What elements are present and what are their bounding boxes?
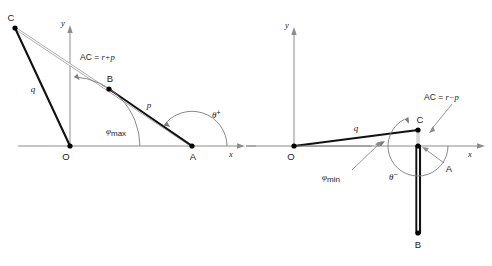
right-theta-superscript: − [393, 171, 397, 178]
figure-root: O A B C y x q p AC = r+p φmax θ+ [0, 0, 492, 266]
right-label-theta-minus: θ− [389, 171, 398, 183]
left-point-C [12, 25, 17, 30]
right-label-AC-equation: AC = r−p [424, 92, 459, 102]
right-point-C [415, 127, 420, 132]
panel-left: O A B C y x q p AC = r+p φmax θ+ [8, 12, 245, 162]
right-label-y-axis: y [284, 20, 289, 30]
left-theta-superscript: + [216, 109, 220, 116]
right-label-O: O [287, 151, 294, 162]
left-label-q: q [31, 84, 36, 94]
left-point-O [67, 143, 72, 148]
right-label-C: C [417, 114, 424, 125]
right-link-p [416, 146, 420, 233]
right-label-A: A [446, 163, 453, 174]
left-AC-rhs: r+p [102, 52, 115, 62]
left-AC-lhs: AC = [80, 52, 102, 62]
right-leader-A [425, 149, 444, 163]
left-label-O: O [62, 151, 69, 162]
left-y-axis [67, 25, 72, 146]
left-label-y-axis: y [60, 18, 65, 28]
left-arc-theta-plus [164, 111, 227, 146]
left-label-A: A [190, 151, 197, 162]
right-leader-phi-min [352, 143, 380, 170]
right-label-B: B [415, 239, 421, 250]
right-point-O [291, 143, 296, 148]
left-phi-subscript: max [111, 129, 126, 138]
right-label-q: q [354, 123, 359, 133]
left-label-C: C [8, 12, 15, 23]
right-label-x-axis: x [467, 149, 472, 159]
left-point-B [106, 86, 111, 91]
right-phi-subscript: min [327, 175, 340, 184]
left-label-p: p [146, 100, 152, 110]
left-label-theta-plus: θ+ [212, 109, 221, 121]
left-x-axis [18, 143, 245, 148]
right-label-phi-min: φmin [322, 172, 340, 184]
left-label-x-axis: x [228, 149, 233, 159]
left-label-phi-max: φmax [106, 126, 126, 138]
right-point-B [415, 230, 420, 235]
right-AC-lhs: AC = [424, 92, 446, 102]
right-y-axis [291, 27, 296, 146]
left-label-AC-equation: AC = r+p [80, 52, 115, 62]
panel-right: O A B C y x q AC = r−p φmin θ− [246, 20, 485, 250]
right-point-A [415, 143, 420, 148]
geometry-diagram: O A B C y x q p AC = r+p φmax θ+ [0, 0, 492, 266]
left-point-A [189, 143, 194, 148]
right-AC-rhs: r−p [446, 92, 459, 102]
left-label-B: B [107, 73, 113, 84]
right-leader-AC [431, 104, 452, 130]
